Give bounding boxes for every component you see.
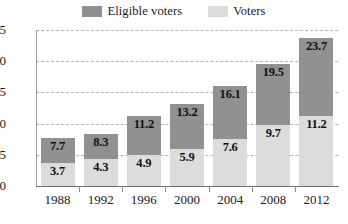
bar-value-label-total: 11.2 <box>127 118 161 131</box>
bar-segment-eligible-voters: 11.2 <box>127 116 161 155</box>
y-tick-label: 15 <box>0 84 6 100</box>
bar-2012: 23.711.2 <box>299 38 333 186</box>
bar-1996: 11.24.9 <box>127 116 161 186</box>
bar-segment-voters: 3.7 <box>41 163 75 186</box>
y-tick-label: 0 <box>0 178 6 194</box>
y-tick-label: 10 <box>0 116 6 132</box>
dark-gray-swatch-icon <box>82 6 102 17</box>
x-tick-label: 1996 <box>131 192 157 208</box>
bar-segment-voters: 4.3 <box>84 159 118 186</box>
legend-item-eligible-voters: Eligible voters <box>82 4 182 19</box>
x-tick-label: 2012 <box>303 192 329 208</box>
bar-value-label-voters: 7.6 <box>213 141 247 154</box>
x-axis-line <box>36 186 339 187</box>
x-tick-label: 2000 <box>174 192 200 208</box>
bar-1988: 7.73.7 <box>41 138 75 186</box>
bar-value-label-voters: 3.7 <box>41 165 75 178</box>
y-tick-label: 25 <box>0 22 6 38</box>
bar-value-label-total: 13.2 <box>170 106 204 119</box>
bar-value-label-total: 16.1 <box>213 88 247 101</box>
legend-item-voters: Voters <box>208 4 265 19</box>
bar-value-label-total: 8.3 <box>84 136 118 149</box>
bar-segment-eligible-voters: 19.5 <box>256 64 290 125</box>
legend-label-eligible-voters: Eligible voters <box>107 4 182 19</box>
bar-segment-eligible-voters: 7.7 <box>41 138 75 163</box>
legend-label-voters: Voters <box>233 4 265 19</box>
x-tick-label: 2004 <box>217 192 243 208</box>
bar-segment-voters: 9.7 <box>256 125 290 186</box>
y-axis-line <box>36 30 37 187</box>
bar-segment-voters: 7.6 <box>213 139 247 186</box>
bar-value-label-total: 23.7 <box>299 40 333 53</box>
bar-value-label-voters: 9.7 <box>256 127 290 140</box>
gridline <box>36 92 338 93</box>
bar-segment-eligible-voters: 16.1 <box>213 86 247 139</box>
x-tick-label: 2008 <box>260 192 286 208</box>
x-axis-tick-labels: 1988199219962000200420082012 <box>36 192 338 212</box>
gridline <box>36 61 338 62</box>
x-tick-label: 1988 <box>45 192 71 208</box>
bar-value-label-total: 19.5 <box>256 66 290 79</box>
bar-2008: 19.59.7 <box>256 64 290 186</box>
plot-area: 7.73.78.34.311.24.913.25.916.17.619.59.7… <box>36 30 338 186</box>
bar-1992: 8.34.3 <box>84 134 118 186</box>
bar-2000: 13.25.9 <box>170 104 204 186</box>
chart-legend: Eligible voters Voters <box>0 4 348 19</box>
bar-value-label-voters: 4.3 <box>84 161 118 174</box>
bar-segment-eligible-voters: 23.7 <box>299 38 333 116</box>
y-tick-label: 5 <box>0 147 6 163</box>
bar-2004: 16.17.6 <box>213 86 247 186</box>
light-gray-swatch-icon <box>208 6 228 17</box>
bar-value-label-total: 7.7 <box>41 140 75 153</box>
bar-value-label-voters: 11.2 <box>299 118 333 131</box>
x-tick-label: 1992 <box>88 192 114 208</box>
y-tick-label: 20 <box>0 53 6 69</box>
stacked-bar-chart: Eligible voters Voters 0 5 10 15 20 25 7… <box>0 0 348 224</box>
bar-segment-voters: 5.9 <box>170 149 204 186</box>
bar-value-label-voters: 4.9 <box>127 157 161 170</box>
bar-segment-voters: 11.2 <box>299 116 333 186</box>
gridline <box>36 30 338 31</box>
bar-segment-eligible-voters: 13.2 <box>170 104 204 150</box>
bar-segment-eligible-voters: 8.3 <box>84 134 118 159</box>
bar-value-label-voters: 5.9 <box>170 151 204 164</box>
bar-segment-voters: 4.9 <box>127 155 161 186</box>
